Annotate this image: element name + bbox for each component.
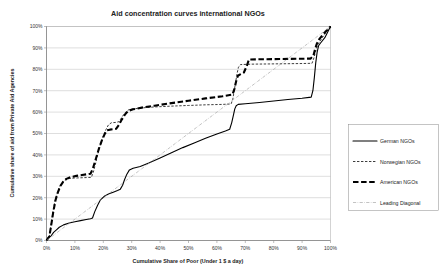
x-axis-label: Cumulative Share of Poor (Under 1 $ a da…: [133, 258, 244, 264]
x-tick-label: 40%: [155, 245, 166, 251]
y-tick-label: 80%: [32, 66, 43, 72]
x-tick-label: 70%: [240, 245, 251, 251]
y-tick-label: 10%: [32, 216, 43, 222]
chart-figure: Aid concentration curves international N…: [0, 0, 445, 277]
x-tick-label: 10%: [70, 245, 81, 251]
x-tick-label: 60%: [212, 245, 223, 251]
y-tick-label: 70%: [32, 88, 43, 94]
y-axis-label: Cumulative share of aid from Private Aid…: [9, 68, 15, 197]
y-tick-label: 50%: [32, 130, 43, 136]
y-tick-label: 20%: [32, 195, 43, 201]
y-tick-label: 30%: [32, 173, 43, 179]
legend-label: German NGOs: [380, 138, 415, 144]
x-tick-label: 80%: [269, 245, 280, 251]
y-tick-label: 100%: [30, 23, 43, 29]
x-tick-label: 0%: [43, 245, 51, 251]
legend-label: Norwegian NGOs: [380, 159, 421, 165]
y-tick-label: 60%: [32, 109, 43, 115]
chart-title: Aid concentration curves international N…: [111, 9, 265, 18]
x-tick-label: 90%: [297, 245, 308, 251]
x-tick-label: 30%: [127, 245, 138, 251]
x-tick-label: 50%: [183, 245, 194, 251]
y-tick-label: 90%: [32, 45, 43, 51]
legend-label: Leading Diagonal: [380, 200, 420, 206]
y-tick-label: 40%: [32, 152, 43, 158]
x-tick-label: 20%: [98, 245, 109, 251]
x-tick-label: 100%: [324, 245, 337, 251]
legend-label: American NGOs: [380, 179, 418, 185]
y-tick-label: 0%: [35, 237, 43, 243]
